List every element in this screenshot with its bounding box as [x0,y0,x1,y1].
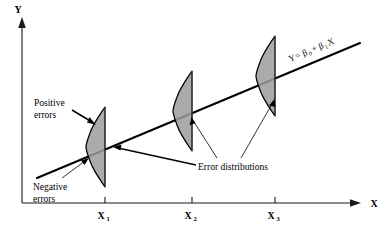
tick-label-x3: X 3 [267,210,280,222]
tick-label-x1-base: X [97,210,105,221]
y-axis [18,17,26,203]
positive-errors-line2: errors [34,110,56,120]
y-axis-label: Y [14,4,22,15]
error-distribution-x2 [173,71,192,151]
tick-label-x2-base: X [184,210,192,221]
negative-errors-line2: errors [33,194,55,204]
positive-errors-label: Positive errors [34,98,65,120]
x-axis-ticks [105,197,275,203]
x-axis-label: X [370,198,378,209]
leader-positive-errors [72,110,96,125]
tick-label-x3-sub: 3 [276,215,280,222]
regression-line [37,43,360,178]
regression-equation: Y = β 0 + β 1 X [287,36,336,65]
regression-error-diagram: Y X X 1 X 2 X 3 Positive errors Negative… [0,0,389,233]
positive-errors-line1: Positive [34,98,65,108]
negative-errors-line1: Negative [33,182,67,192]
negative-errors-label: Negative errors [33,182,67,204]
error-distributions-label: Error distributions [198,162,268,172]
tick-label-x2: X 2 [184,210,196,222]
tick-label-x2-sub: 2 [193,215,196,222]
tick-label-x3-base: X [267,210,275,221]
leader-error-distributions-2 [190,117,218,158]
tick-label-x1: X 1 [97,210,109,222]
tick-label-x1-sub: 1 [106,215,109,222]
leader-error-distributions-1 [113,145,196,166]
